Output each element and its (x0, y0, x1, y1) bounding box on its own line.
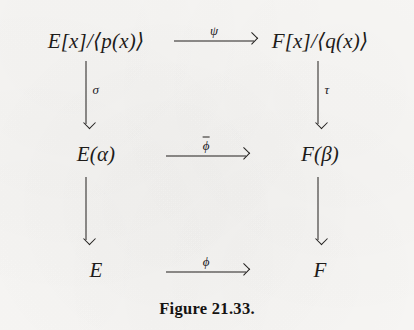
figure-container: E[x]/⟨p(x)⟩ F[x]/⟨q(x)⟩ E(α) F(β) E F ψ … (0, 0, 414, 330)
arrow-label-sigma: σ (93, 82, 99, 95)
node-bottom-right: F (313, 260, 326, 281)
arrow-label-phi-bar: ϕ (203, 137, 210, 152)
arrow-bottom-phi: ϕ (166, 272, 246, 273)
node-bottom-left: E (89, 260, 102, 281)
arrow-label-psi: ψ (210, 24, 218, 37)
arrow-label-phi: ϕ (203, 255, 210, 268)
arrow-right-tau: τ (318, 61, 319, 124)
figure-caption: Figure 21.33. (0, 299, 414, 319)
node-top-left: E[x]/⟨p(x)⟩ (48, 31, 145, 52)
arrow-left-sigma: σ (86, 61, 87, 124)
commutative-diagram: E[x]/⟨p(x)⟩ F[x]/⟨q(x)⟩ E(α) F(β) E F ψ … (0, 0, 414, 296)
arrow-right-lower (318, 177, 319, 240)
node-middle-right: F(β) (301, 144, 339, 165)
arrow-middle-phi-bar: ϕ (166, 156, 246, 157)
node-middle-left: E(α) (77, 144, 116, 165)
arrow-label-tau: τ (325, 82, 330, 95)
arrow-left-lower (86, 177, 87, 240)
node-top-right: F[x]/⟨q(x)⟩ (272, 31, 369, 52)
arrow-top-psi: ψ (174, 41, 254, 42)
